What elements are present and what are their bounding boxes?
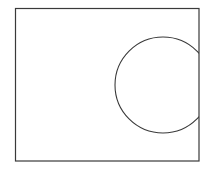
diagram-canvas [0,0,208,170]
circle-shape [115,37,208,133]
rectangle-shape [16,9,200,162]
diagram-figure [0,0,208,170]
